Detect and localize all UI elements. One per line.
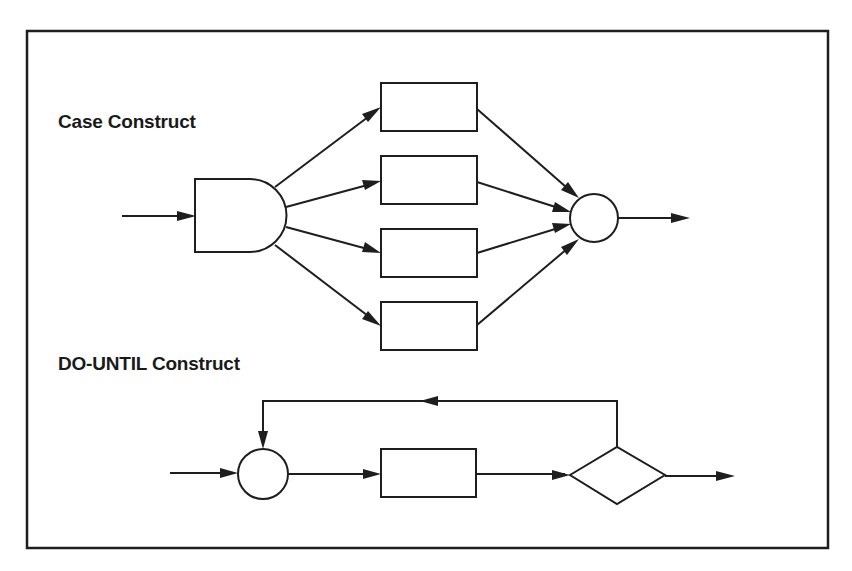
case-output-arrow	[618, 213, 690, 223]
loop-box-to-decision-arrow	[476, 470, 570, 480]
case-box-4	[381, 302, 477, 350]
case-box-2	[381, 156, 477, 204]
loop-decision-diamond	[570, 447, 665, 504]
loop-junction-to-box-arrow	[288, 469, 381, 479]
case-box-3	[381, 229, 477, 277]
case-fanin-arrows	[477, 109, 579, 325]
case-construct-title: Case Construct	[58, 112, 196, 131]
do-until-construct	[170, 396, 735, 504]
case-input-arrow	[122, 211, 196, 221]
case-selector-node	[195, 179, 287, 252]
case-box-1	[381, 83, 477, 131]
case-construct	[122, 83, 690, 350]
do-until-construct-title: DO-UNTIL Construct	[58, 354, 240, 373]
loop-junction-circle	[238, 449, 288, 499]
diagram-svg	[0, 0, 852, 571]
loop-output-arrow	[665, 471, 735, 481]
case-fanout-arrows	[275, 107, 381, 326]
case-junction-circle	[570, 194, 618, 242]
loop-input-arrow	[170, 468, 238, 478]
loop-process-box	[381, 449, 476, 497]
loop-feedback-path	[258, 396, 617, 449]
diagram-canvas: Case Construct DO-UNTIL Construct	[0, 0, 852, 571]
